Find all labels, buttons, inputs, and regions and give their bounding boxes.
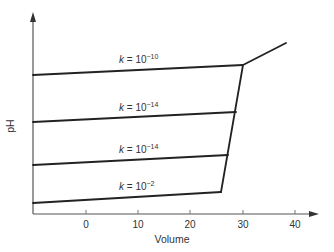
equivalence-line	[221, 65, 243, 192]
x-tick-label: 40	[289, 219, 301, 230]
chart: 0 10 20 30 40 Volume pH k = 10−10 k = 10…	[0, 0, 334, 252]
series-k-1e-14-upper	[33, 112, 236, 122]
x-tick-label: 0	[83, 219, 89, 230]
series-k-1e-2	[33, 192, 221, 203]
series-label: k = 10−14	[119, 101, 159, 113]
y-axis-arrow-icon	[30, 12, 36, 22]
x-axis-label: Volume	[154, 233, 189, 245]
series-label-base: = 10	[124, 181, 147, 192]
series-label-base: = 10	[124, 102, 147, 113]
series-label-exp: −10	[147, 53, 159, 60]
series-label-exp: −2	[147, 180, 155, 187]
series-label: k = 10−2	[119, 180, 155, 192]
series-k-1e-14-lower	[33, 155, 228, 165]
series-label-base: = 10	[124, 54, 147, 65]
x-tick-label: 20	[184, 219, 196, 230]
x-tick-label: 10	[132, 219, 144, 230]
x-tick-label: 30	[237, 219, 249, 230]
series-label: k = 10−14	[119, 143, 159, 155]
series-label-exp: −14	[147, 143, 159, 150]
series-label-base: = 10	[124, 144, 147, 155]
series-label-exp: −14	[147, 101, 159, 108]
series-label: k = 10−10	[119, 53, 159, 65]
y-axis-label: pH	[4, 119, 16, 132]
series-k-1e-10	[33, 43, 286, 75]
x-axis-arrow-icon	[309, 211, 319, 217]
